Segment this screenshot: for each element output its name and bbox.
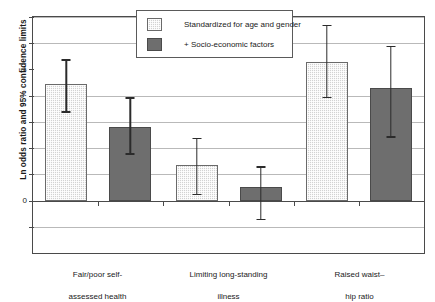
category-label-2-line1: Raised waist– <box>335 270 385 279</box>
error-bar-cap-lower <box>62 111 71 113</box>
error-bar-cap-lower <box>256 219 265 221</box>
error-bar-cap-lower <box>386 136 395 138</box>
error-bar-stem <box>326 25 327 98</box>
y-tick-minor <box>29 96 34 97</box>
category-label-0: Fair/poor self- assessed health <box>32 258 163 302</box>
y-tick-minor <box>29 174 34 175</box>
gridline <box>33 96 424 97</box>
legend-swatch-light <box>147 18 162 31</box>
error-bar-cap-upper <box>322 25 331 27</box>
x-tick <box>229 201 230 206</box>
error-bar-cap-lower <box>126 153 135 155</box>
legend-swatch-dark <box>147 38 162 51</box>
y-tick-label: 0 <box>23 197 27 205</box>
category-label-0-line1: Fair/poor self- <box>73 270 122 279</box>
error-bar-stem <box>196 138 197 196</box>
error-bar-cap-upper <box>192 138 201 140</box>
error-bar-cap-upper <box>126 97 135 99</box>
category-label-1-line1: Limiting long-standing <box>190 270 268 279</box>
gridline <box>33 227 424 228</box>
category-label-2-line2: hip ratio <box>345 292 373 301</box>
y-tick-minor <box>29 148 34 149</box>
category-label-1-line2: illness <box>217 292 239 301</box>
y-tick-minor <box>29 122 34 123</box>
error-bar-cap-upper <box>256 166 265 168</box>
x-tick <box>294 201 295 206</box>
x-tick <box>98 201 99 206</box>
y-tick-minor <box>29 43 34 44</box>
category-label-0-line2: assessed health <box>69 292 127 301</box>
error-bar-cap-lower <box>322 97 331 99</box>
y-axis-title: Ln odds ratio and 95% confidence limits <box>19 15 28 185</box>
category-label-2: Raised waist– hip ratio <box>294 258 425 302</box>
error-bar-cap-upper <box>386 46 395 48</box>
error-bar-cap-lower <box>192 194 201 196</box>
legend-label-socioeconomic: + Socio-economic factors <box>184 40 274 49</box>
y-tick <box>29 69 34 70</box>
gridline <box>33 122 424 123</box>
gridline <box>33 174 424 175</box>
legend-item-standardized: Standardized for age and gender <box>147 18 301 31</box>
error-bar-stem <box>390 46 391 138</box>
x-tick <box>163 201 164 206</box>
error-bar-stem <box>260 166 261 220</box>
y-tick-minor <box>29 227 34 228</box>
y-tick-minor <box>29 17 34 18</box>
y-tick <box>29 201 34 202</box>
legend-item-socioeconomic: + Socio-economic factors <box>147 38 274 51</box>
x-tick <box>359 201 360 206</box>
category-label-1: Limiting long-standing illness <box>163 258 294 302</box>
y-tick-label: 1 <box>23 65 27 73</box>
legend-label-standardized: Standardized for age and gender <box>184 20 301 29</box>
gridline <box>33 148 424 149</box>
chart-legend: Standardized for age and gender + Socio-… <box>136 10 293 58</box>
error-bar-cap-upper <box>62 59 71 61</box>
error-bar-stem <box>129 97 130 155</box>
error-bar-stem <box>65 59 66 113</box>
